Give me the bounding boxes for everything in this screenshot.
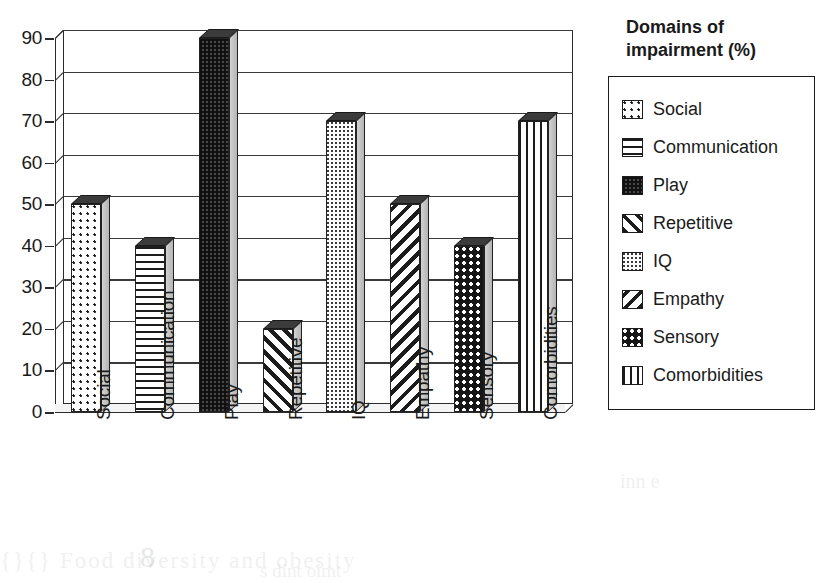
legend-item-label: Comorbidities (653, 366, 763, 384)
legend-item-label: Repetitive (653, 214, 733, 232)
y-axis-label: 70 (21, 111, 42, 130)
y-axis-label: 60 (21, 153, 42, 172)
legend-item-label: Social (653, 100, 702, 118)
legend-item-label: Play (653, 176, 688, 194)
bar-play (199, 38, 238, 412)
x-axis-label-comorbidities: Comorbidities (541, 306, 560, 420)
legend-swatch-icon (622, 176, 643, 195)
legend-swatch-icon (622, 100, 643, 119)
y-axis-label: 90 (21, 28, 42, 47)
x-axis-label-repetitive: Repetitive (286, 338, 305, 421)
legend-title: Domains of impairment (%) (626, 16, 830, 62)
legend-item-comorbidities[interactable]: Comorbidities (622, 356, 804, 394)
y-axis-label: 10 (21, 360, 42, 379)
bar-front-face (326, 121, 356, 412)
legend-item-iq[interactable]: IQ (622, 242, 804, 280)
y-axis-tick (45, 80, 54, 82)
bar-iq (326, 121, 365, 412)
legend-swatch-icon (622, 214, 643, 233)
legend-item-social[interactable]: Social (622, 90, 804, 128)
legend-swatch-icon (622, 290, 643, 309)
legend-item-play[interactable]: Play (622, 166, 804, 204)
y-axis-label: 0 (32, 402, 42, 421)
legend: Domains of impairment (%) SocialCommunic… (608, 8, 830, 410)
bar-side-face (229, 30, 238, 412)
y-axis-label: 40 (21, 236, 42, 255)
y-axis-label: 50 (21, 194, 42, 213)
bar-front-face (199, 38, 229, 412)
x-axis-label-social: Social (94, 369, 113, 420)
x-axis-label-empathy: Empathy (413, 346, 432, 420)
x-axis-label-communication: Communication (158, 291, 177, 420)
y-axis-tick (45, 370, 54, 372)
legend-item-label: IQ (653, 252, 672, 270)
y-axis: 0102030405060708090 (0, 0, 42, 583)
y-axis-tick (45, 287, 54, 289)
y-axis-tick (45, 246, 54, 248)
y-axis-tick (45, 204, 54, 206)
legend-swatch-icon (622, 252, 643, 271)
y-axis-tick (45, 412, 54, 414)
legend-swatch-icon (622, 366, 643, 385)
y-axis-tick (45, 329, 54, 331)
bar-chart: 0102030405060708090 SocialCommunicationP… (0, 0, 600, 583)
y-axis-label: 30 (21, 277, 42, 296)
legend-item-label: Empathy (653, 290, 724, 308)
legend-swatch-icon (622, 328, 643, 347)
y-axis-label: 80 (21, 70, 42, 89)
gridline (63, 30, 573, 31)
legend-swatch-icon (622, 138, 643, 157)
depth-connector-bottomright (565, 404, 574, 413)
y-axis-label: 20 (21, 319, 42, 338)
legend-item-label: Communication (653, 138, 778, 156)
legend-item-empathy[interactable]: Empathy (622, 280, 804, 318)
legend-item-communication[interactable]: Communication (622, 128, 804, 166)
y-axis-tick (45, 38, 54, 40)
legend-item-repetitive[interactable]: Repetitive (622, 204, 804, 242)
scan-artifact-ghost-text: inn e (620, 470, 659, 493)
legend-item-label: Sensory (653, 328, 719, 346)
x-axis-label-play: Play (222, 384, 241, 420)
bar-side-face (356, 113, 365, 412)
x-axis-label-sensory: Sensory (477, 352, 496, 420)
y-axis-tick (45, 121, 54, 123)
y-axis-tick (45, 163, 54, 165)
x-axis-label-iq: IQ (349, 400, 368, 420)
legend-item-sensory[interactable]: Sensory (622, 318, 804, 356)
legend-box: SocialCommunicationPlayRepetitiveIQEmpat… (608, 76, 815, 410)
